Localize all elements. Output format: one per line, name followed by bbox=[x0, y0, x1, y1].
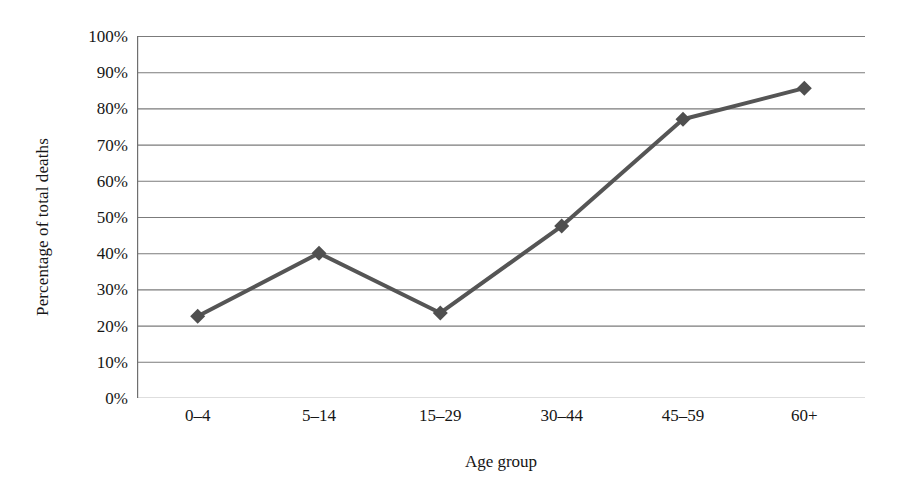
plot-svg bbox=[137, 36, 865, 398]
y-tick-label: 70% bbox=[10, 136, 128, 153]
y-tick-label: 60% bbox=[10, 172, 128, 189]
x-axis-title: Age group bbox=[137, 452, 865, 472]
y-tick-label: 100% bbox=[10, 28, 128, 45]
y-axis-tick-labels: 0%10%20%30%40%50%60%70%80%90%100% bbox=[0, 0, 128, 497]
y-tick-label: 80% bbox=[10, 100, 128, 117]
y-tick-label: 50% bbox=[10, 209, 128, 226]
x-tick-label: 15–29 bbox=[419, 406, 462, 426]
data-point-marker bbox=[312, 246, 327, 261]
x-tick-label: 45–59 bbox=[662, 406, 705, 426]
gridlines bbox=[137, 37, 865, 399]
x-axis-tick-labels: 0–45–1415–2930–4445–5960+ bbox=[137, 406, 865, 432]
y-tick-label: 10% bbox=[10, 353, 128, 370]
y-tick-label: 40% bbox=[10, 245, 128, 262]
series-line bbox=[198, 88, 805, 316]
data-point-marker bbox=[797, 81, 812, 96]
x-tick-label: 5–14 bbox=[302, 406, 336, 426]
y-tick-label: 90% bbox=[10, 64, 128, 81]
x-tick-label: 30–44 bbox=[540, 406, 583, 426]
y-tick-label: 0% bbox=[10, 390, 128, 407]
y-tick-label: 30% bbox=[10, 281, 128, 298]
data-point-marker bbox=[190, 309, 205, 324]
x-tick-label: 60+ bbox=[791, 406, 818, 426]
x-tick-label: 0–4 bbox=[185, 406, 211, 426]
line-chart: Percentage of total deaths 0%10%20%30%40… bbox=[0, 0, 908, 497]
y-tick-label: 20% bbox=[10, 317, 128, 334]
series-markers bbox=[190, 81, 812, 324]
plot-area bbox=[137, 36, 865, 398]
